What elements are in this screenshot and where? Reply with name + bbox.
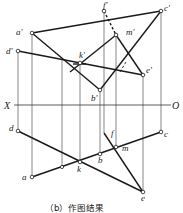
point-m-prime (114, 33, 118, 37)
point-e-prime (141, 73, 145, 77)
label-b-prime: b' (91, 93, 99, 103)
point-a (30, 175, 34, 179)
projection-diagram: a' c' d' e' f' m' k' b' X O d a k b m c … (0, 0, 183, 213)
label-e: e (141, 193, 145, 203)
axis-label-o: O (172, 100, 179, 111)
axis-label-x: X (3, 100, 11, 111)
point-aux (60, 165, 63, 168)
label-b: b (98, 155, 103, 165)
label-c-prime: c' (164, 3, 171, 13)
point-k-prime (78, 61, 82, 65)
point-labels: a' c' d' e' f' m' k' b' X O d a k b m c … (3, 0, 179, 203)
figure-caption: （b）作图结果 (45, 203, 104, 213)
point-a-prime (30, 31, 34, 35)
point-b-prime (98, 88, 102, 92)
label-m: m (122, 143, 129, 153)
label-c: c (164, 129, 168, 139)
label-f: f (111, 128, 115, 138)
point-d (16, 129, 20, 133)
label-d: d (9, 123, 14, 133)
point-c-prime (159, 9, 163, 13)
point-c (159, 130, 163, 134)
label-k-prime: k' (79, 50, 86, 60)
label-a-prime: a' (16, 27, 24, 37)
label-m-prime: m' (126, 27, 135, 37)
point-m (114, 145, 118, 149)
label-a: a (22, 172, 27, 182)
front-view (18, 11, 161, 90)
label-d-prime: d' (6, 46, 14, 56)
label-f-prime: f' (103, 0, 109, 10)
point-d-prime (16, 49, 20, 53)
label-e-prime: e' (146, 65, 153, 75)
label-k: k (77, 164, 82, 174)
